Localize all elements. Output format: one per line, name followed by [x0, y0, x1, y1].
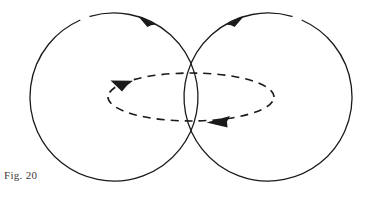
- right-circle-arrow-icon: [226, 15, 245, 27]
- right-circle-group: [184, 13, 352, 181]
- ellipse-arrow-bottom-right-icon: [207, 116, 231, 128]
- right-circle-path: [184, 13, 352, 181]
- figure-caption: Fig. 20: [4, 168, 37, 182]
- dashed-ellipse-lower-path: [108, 97, 274, 121]
- figure-drawing: [0, 0, 372, 199]
- left-circle-arrow-icon: [138, 15, 157, 27]
- figure-container: Fig. 20: [0, 0, 372, 199]
- left-circle-path: [30, 13, 198, 181]
- left-circle-group: [30, 13, 198, 181]
- dashed-ellipse-upper-path: [108, 73, 274, 97]
- dashed-ellipse-group: [108, 73, 274, 127]
- ellipse-arrow-top-left-icon: [111, 81, 134, 92]
